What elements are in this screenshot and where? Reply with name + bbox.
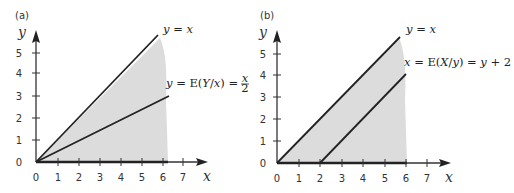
- svg-text:3: 3: [260, 92, 266, 103]
- annotation-conditional-mean-a: y = E(Y/x) =: [165, 76, 238, 90]
- svg-text:3: 3: [97, 172, 103, 183]
- svg-text:0: 0: [16, 157, 22, 168]
- svg-text:5: 5: [260, 49, 266, 60]
- svg-text:5: 5: [139, 172, 145, 183]
- svg-text:1: 1: [296, 173, 302, 184]
- svg-text:4: 4: [16, 68, 22, 79]
- svg-text:2: 2: [241, 81, 248, 95]
- svg-text:5: 5: [382, 173, 388, 184]
- panel-label-b: (b): [260, 10, 274, 21]
- chart-panel-b: 0 1 2 3 4 5 6 7 0 1 2 3 4 5 x y (b) y = …: [257, 0, 514, 193]
- panel-label-a: (a): [15, 10, 29, 21]
- chart-panel-a: 0 1 2 3 4 5 6 7 0 1 2 3 4 5 x y (a) y = …: [0, 0, 257, 193]
- svg-text:2: 2: [76, 172, 82, 183]
- svg-text:3: 3: [339, 173, 345, 184]
- svg-text:1: 1: [16, 135, 22, 146]
- annotation-y-equals-x: y = x: [405, 22, 436, 36]
- x-tick-labels: 0 1 2 3 4 5 6 7: [33, 172, 186, 183]
- svg-text:5: 5: [16, 48, 22, 59]
- svg-text:4: 4: [360, 173, 366, 184]
- svg-text:6: 6: [403, 173, 409, 184]
- svg-text:1: 1: [260, 136, 266, 147]
- svg-text:2: 2: [260, 114, 266, 125]
- x-tick-labels: 0 1 2 3 4 5 6 7: [274, 173, 430, 184]
- x-axis-label: x: [445, 169, 453, 185]
- svg-text:0: 0: [274, 173, 280, 184]
- svg-text:7: 7: [424, 173, 430, 184]
- svg-text:2: 2: [317, 173, 323, 184]
- y-axis-label: y: [17, 24, 27, 40]
- y-axis-label: y: [258, 24, 268, 40]
- chart-b-svg: 0 1 2 3 4 5 6 7 0 1 2 3 4 5 x y (b) y = …: [257, 0, 514, 193]
- svg-text:4: 4: [118, 172, 124, 183]
- svg-text:2: 2: [16, 113, 22, 124]
- y-tick-labels: 0 1 2 3 4 5: [16, 48, 22, 168]
- fraction-x-over-2: x 2: [241, 71, 249, 95]
- y-tick-labels: 0 1 2 3 4 5: [260, 49, 266, 169]
- chart-a-svg: 0 1 2 3 4 5 6 7 0 1 2 3 4 5 x y (a) y = …: [0, 0, 257, 193]
- svg-text:1: 1: [55, 172, 61, 183]
- svg-text:6: 6: [160, 172, 166, 183]
- annotation-y-equals-x: y = x: [162, 22, 193, 36]
- annotation-conditional-mean-b: x = E(X/y) = y + 2: [404, 55, 511, 69]
- svg-text:0: 0: [33, 172, 39, 183]
- svg-text:4: 4: [260, 70, 266, 81]
- svg-text:0: 0: [260, 158, 266, 169]
- x-axis-label: x: [203, 168, 211, 184]
- svg-text:7: 7: [180, 172, 186, 183]
- shaded-region: [36, 38, 168, 162]
- svg-text:3: 3: [16, 91, 22, 102]
